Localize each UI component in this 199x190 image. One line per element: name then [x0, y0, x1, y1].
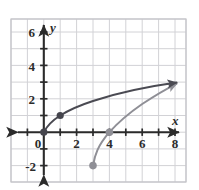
y-axis-label: y [48, 20, 56, 35]
point-dark-one-one [57, 112, 64, 119]
point-light-start [89, 162, 97, 170]
y-tick-label-2: 2 [29, 92, 36, 107]
x-tick-label-4: 4 [106, 136, 113, 151]
point-dark-origin [40, 129, 47, 136]
origin-label: 0 [35, 136, 42, 151]
x-tick-label-2: 2 [73, 136, 80, 151]
point-light-x-intercept [106, 128, 114, 136]
x-axis-label: x [171, 113, 179, 128]
y-tick-label-minus-2: -2 [25, 159, 36, 174]
x-tick-label-6: 6 [139, 136, 146, 151]
coordinate-plane-chart: 6 4 2 -2 0 2 4 6 8 y x [0, 0, 199, 190]
plot-area: 6 4 2 -2 0 2 4 6 8 y x [0, 0, 199, 190]
y-tick-label-4: 4 [29, 59, 36, 74]
x-tick-label-8: 8 [172, 136, 179, 151]
y-tick-label-6: 6 [29, 25, 36, 40]
